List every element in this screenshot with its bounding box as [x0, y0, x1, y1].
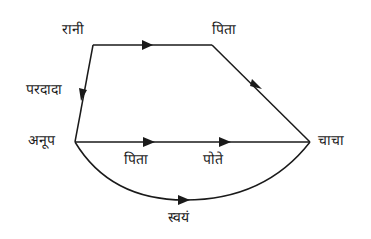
edge-rani-to-anup — [75, 45, 93, 142]
edge-pita-to-chacha — [212, 45, 310, 142]
node-chacha: चाचा — [318, 133, 344, 147]
node-rani: रानी — [62, 22, 84, 36]
edge-rani-to-pita — [93, 40, 212, 50]
relation-diagram — [0, 0, 371, 239]
edge-label-pita: पिता — [124, 152, 148, 166]
arrow-right-icon — [143, 137, 155, 147]
edge-anup-to-chacha — [75, 137, 310, 147]
arrow-right-icon — [178, 195, 190, 205]
node-pardada: परदादा — [26, 82, 62, 96]
arrow-right-icon — [219, 137, 231, 147]
node-pita-top: पिता — [212, 22, 236, 36]
arrow-right-icon — [142, 40, 153, 50]
edge-label-svayam: स्वयं — [168, 210, 189, 224]
edge-label-pote: पोते — [203, 152, 223, 166]
node-anup: अनूप — [28, 133, 55, 147]
arrow-down-right-icon — [250, 79, 262, 89]
edge-anup-to-chacha-curve — [75, 142, 310, 205]
